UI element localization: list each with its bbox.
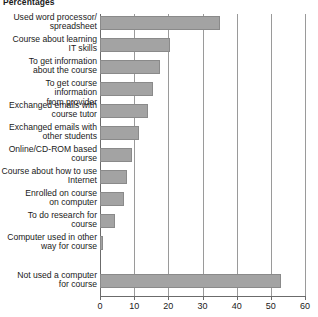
bar-row: [100, 274, 305, 288]
x-tick: [271, 296, 272, 300]
bar: [100, 236, 103, 250]
category-label: Course about learning IT skills: [1, 35, 97, 54]
category-label: Exchanged emails with other students: [1, 123, 97, 142]
bar-row: [100, 214, 305, 228]
chart-title: Percentages: [3, 0, 55, 7]
bar: [100, 274, 281, 288]
x-tick-label: 0: [85, 301, 115, 311]
category-label: Online/CD-ROM based course: [1, 145, 97, 164]
x-tick-label: 10: [119, 301, 149, 311]
bar: [100, 148, 132, 162]
bar-row: [100, 60, 305, 74]
category-label: To do research for course: [1, 211, 97, 230]
x-tick: [237, 296, 238, 300]
bar: [100, 214, 115, 228]
bar-row: [100, 104, 305, 118]
bar-row: [100, 170, 305, 184]
bar-row: [100, 82, 305, 96]
bar-row: [100, 38, 305, 52]
category-label: Course about how to use Internet: [1, 167, 97, 186]
category-label: Enrolled on course on computer: [1, 189, 97, 208]
x-tick: [305, 296, 306, 300]
x-tick: [134, 296, 135, 300]
x-tick: [168, 296, 169, 300]
bar-row: [100, 236, 305, 250]
bar: [100, 192, 124, 206]
bar-chart: Percentages Used word processor/ spreads…: [0, 0, 318, 317]
bar: [100, 38, 170, 52]
bar: [100, 60, 160, 74]
x-tick-label: 20: [153, 301, 183, 311]
gridline-60: [305, 14, 306, 296]
x-tick-label: 40: [222, 301, 252, 311]
bars-layer: [100, 14, 305, 296]
category-label: Used word processor/ spreadsheet: [1, 13, 97, 32]
category-label: Not used a computer for course: [1, 271, 97, 290]
x-tick-label: 50: [256, 301, 286, 311]
x-tick-label: 60: [290, 301, 318, 311]
x-tick-label: 30: [188, 301, 218, 311]
bar-row: [100, 192, 305, 206]
bar: [100, 126, 139, 140]
bar-row: [100, 148, 305, 162]
category-label: To get information about the course: [1, 57, 97, 76]
bar-row: [100, 126, 305, 140]
plot-area: [100, 14, 305, 296]
category-label: Exchanged emails with course tutor: [1, 101, 97, 120]
category-label: Computer used in other way for course: [1, 233, 97, 252]
x-tick: [100, 296, 101, 300]
bar: [100, 104, 148, 118]
bar: [100, 82, 153, 96]
bar: [100, 16, 220, 30]
x-tick: [203, 296, 204, 300]
bar-row: [100, 16, 305, 30]
bar: [100, 170, 127, 184]
